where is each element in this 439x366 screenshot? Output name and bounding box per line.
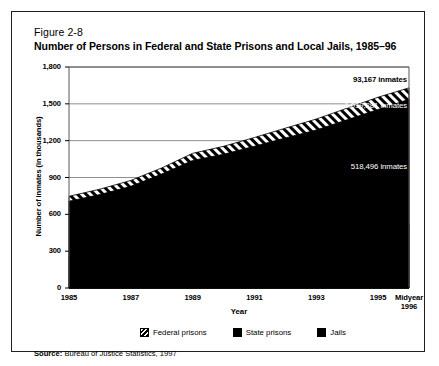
y-axis-tick-label: 1,800 (27, 62, 61, 71)
source-label: Source: (34, 349, 62, 358)
figure-frame: Figure 2-8 Number of Persons in Federal … (11, 11, 425, 352)
x-axis-tick-label: 1993 (294, 293, 338, 302)
source-text: Bureau of Justice Statistics, 1997 (64, 349, 176, 358)
x-axis-tick-label: Midyear1996 (387, 293, 431, 311)
y-axis-tick-label: 900 (27, 173, 61, 182)
legend-swatch-hatched-icon (140, 328, 149, 337)
chart-legend: Federal prisons State prisons Jails (140, 328, 346, 337)
data-annotation-federal: 93,167 inmates (12, 75, 407, 84)
y-axis-tick-label: 600 (27, 209, 61, 218)
y-axis-tick-label: 0 (27, 283, 61, 292)
legend-label-jails: Jails (330, 328, 346, 337)
x-axis-tick-label: 1985 (47, 293, 91, 302)
y-axis-tick-label: 1,200 (27, 136, 61, 145)
legend-label-federal-prisons: Federal prisons (153, 328, 207, 337)
legend-swatch-solid-icon (233, 328, 242, 337)
legend-item-jails: Jails (317, 328, 346, 337)
data-annotation-state: 1,019,281 inmates (12, 101, 407, 110)
x-axis-tick-label: 1989 (171, 293, 215, 302)
y-axis-title: Number of inmates (in thousands) (34, 116, 43, 236)
legend-item-federal-prisons: Federal prisons (140, 328, 207, 337)
x-axis-tick-label: 1987 (109, 293, 153, 302)
legend-swatch-solid-icon (317, 328, 326, 337)
data-annotation-jails: 518,496 inmates (12, 162, 407, 171)
legend-item-state-prisons: State prisons (233, 328, 292, 337)
y-axis-tick-label: 300 (27, 246, 61, 255)
x-axis-tick-label: 1991 (232, 293, 276, 302)
x-axis-title: Year (194, 307, 284, 316)
source-note: Source: Bureau of Justice Statistics, 19… (34, 349, 177, 358)
legend-label-state-prisons: State prisons (246, 328, 292, 337)
